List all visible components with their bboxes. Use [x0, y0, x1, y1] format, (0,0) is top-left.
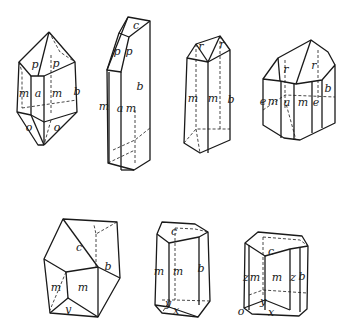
face-label-c: c — [171, 226, 177, 237]
face-label-b: b — [298, 271, 305, 282]
face-label-m: m — [208, 93, 218, 104]
face-label-o: o — [54, 122, 61, 133]
face-label-c: c — [268, 246, 274, 257]
face-label-m: m — [298, 97, 308, 108]
face-label-c: c — [76, 242, 82, 253]
face-label-e: e — [260, 96, 267, 107]
face-label-m: m — [268, 96, 278, 107]
face-label-e: e — [313, 97, 320, 108]
face-label-r: r — [219, 39, 224, 50]
face-label-y: y — [65, 304, 71, 315]
face-label-a: a — [284, 97, 291, 108]
face-label-m: m — [250, 272, 260, 283]
face-label-b: b — [324, 83, 331, 94]
face-label-b: b — [197, 263, 204, 274]
crystal-2-drawing — [107, 17, 150, 170]
face-label-r: r — [311, 60, 316, 71]
face-label-m: m — [51, 282, 61, 293]
face-label-a: a — [117, 103, 124, 114]
face-label-p: p — [113, 46, 120, 57]
face-label-b: b — [104, 261, 111, 272]
face-label-y: y — [260, 296, 266, 307]
face-label-m: m — [173, 266, 183, 277]
face-label-y: y — [165, 298, 171, 309]
face-label-x: x — [173, 305, 179, 316]
face-label-r: r — [198, 41, 203, 52]
face-label-b: b — [136, 81, 143, 92]
face-label-o: o — [238, 306, 245, 317]
face-label-m: m — [52, 88, 62, 99]
face-label-c: c — [133, 20, 139, 31]
face-label-z: z — [290, 272, 296, 283]
face-label-r: r — [283, 64, 288, 75]
face-label-z: z — [243, 272, 249, 283]
face-label-a: a — [35, 88, 42, 99]
face-label-m: m — [154, 266, 164, 277]
face-label-p: p — [52, 58, 59, 69]
face-label-m: m — [272, 272, 282, 283]
face-label-o: o — [26, 122, 33, 133]
face-label-p: p — [125, 46, 132, 57]
face-label-m: m — [126, 103, 136, 114]
face-label-m: m — [19, 88, 29, 99]
face-label-x: x — [268, 307, 274, 318]
face-label-b: b — [227, 94, 234, 105]
face-label-m: m — [78, 282, 88, 293]
face-label-b: b — [73, 86, 80, 97]
face-label-m: m — [188, 93, 198, 104]
face-label-m: m — [99, 101, 109, 112]
face-label-p: p — [31, 59, 38, 70]
